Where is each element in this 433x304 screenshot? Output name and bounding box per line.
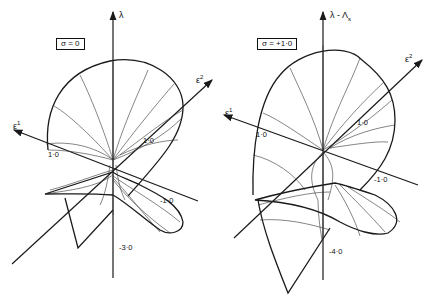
right-e1-neg-tick: -1·0 [374,176,387,184]
right-sigma-label: σ = +1·0 [257,38,297,50]
left-e1-axis-label: ε1 [13,120,20,131]
left-sigma-label: σ = 0 [56,38,85,50]
left-lambda-tick: -3·0 [119,244,132,252]
right-e2-tick: 1·0 [357,119,368,127]
right-surface-plot [224,12,422,293]
left-e1-neg-tick: -1·0 [160,197,173,205]
left-tail [65,198,113,248]
right-e1-axis-label: ε1 [225,107,232,118]
left-e1-tick: 1·0 [48,151,59,159]
left-upper-lobe [47,60,183,196]
left-lambda-axis-label: λ [119,11,124,20]
right-e2-axis-label: ε2 [405,53,412,64]
right-e1-tick: 1·0 [256,131,267,139]
right-tail [258,200,330,293]
right-lambda-axis-label: λ - Λs [330,11,351,22]
left-e2-axis-label: ε2 [196,74,203,85]
right-upper-lobe [253,50,395,195]
right-lambda-tick: -4·0 [329,248,342,256]
left-surface-plot [12,12,212,278]
right-lower-flap [255,183,397,234]
left-e2-tick: 1·0 [143,137,154,145]
